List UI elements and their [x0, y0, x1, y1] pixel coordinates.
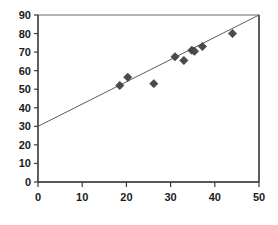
y-tick-label: 50	[19, 83, 31, 95]
y-tick-label: 40	[19, 102, 31, 114]
x-tick-label: 0	[35, 191, 41, 203]
chart-canvas: 0102030405060708090 01020304050	[0, 0, 278, 225]
x-tick-label: 20	[120, 191, 132, 203]
y-tick-label: 0	[25, 176, 31, 188]
x-tick-label: 30	[164, 191, 176, 203]
y-tick-label: 80	[19, 28, 31, 40]
y-tick-label: 10	[19, 157, 31, 169]
x-tick-label: 50	[253, 191, 265, 203]
y-tick-label: 20	[19, 139, 31, 151]
x-tick-label: 40	[209, 191, 221, 203]
x-tick-label: 10	[76, 191, 88, 203]
y-tick-label: 30	[19, 120, 31, 132]
y-tick-label: 60	[19, 65, 31, 77]
y-tick-label: 90	[19, 9, 31, 21]
scatter-chart: 0102030405060708090 01020304050	[0, 0, 278, 225]
y-tick-label: 70	[19, 46, 31, 58]
